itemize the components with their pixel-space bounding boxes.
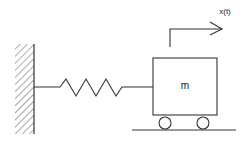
- wheel-left: [159, 117, 171, 129]
- displacement-arrow: x(t): [170, 7, 231, 47]
- arrow-shaft: [170, 29, 222, 47]
- mass-label: m: [181, 80, 189, 91]
- displacement-label: x(t): [219, 7, 231, 16]
- wall-hatching: [15, 44, 34, 134]
- fixed-wall: [15, 44, 34, 134]
- spring: [34, 79, 153, 96]
- wheel-right: [197, 117, 209, 129]
- mass-block: m: [153, 58, 217, 115]
- mass-spring-diagram: m x(t): [0, 0, 246, 152]
